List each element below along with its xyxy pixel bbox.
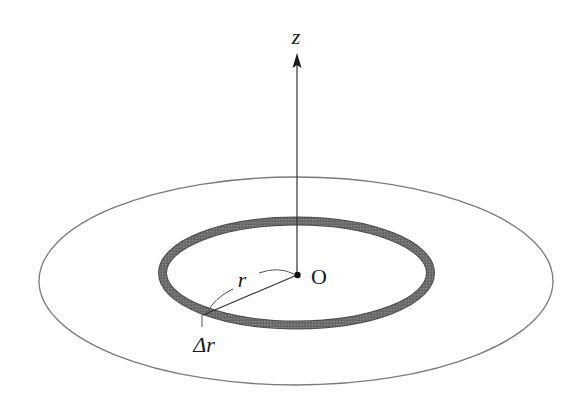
radius-label: r — [238, 267, 247, 292]
origin-point — [294, 272, 300, 278]
origin-label: O — [311, 264, 327, 289]
annular-ring-diagram: z O r Δr — [0, 0, 585, 405]
outer-disk-ellipse — [39, 177, 553, 385]
z-axis-label: z — [291, 24, 301, 49]
radius-dimension-arc-right — [259, 270, 294, 274]
thickness-label: Δr — [192, 332, 215, 357]
radius-line — [203, 275, 297, 315]
